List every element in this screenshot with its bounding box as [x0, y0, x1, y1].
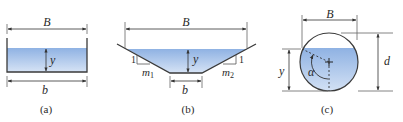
label-b: b	[42, 83, 48, 97]
panel-c-circular-channel: B d y α (c)	[278, 7, 393, 116]
label-y: y	[49, 53, 56, 67]
panel-b-trapezoidal-channel: B y 1 m1 1 m2 b (b)	[117, 15, 256, 116]
label-y: y	[278, 64, 285, 78]
label-d: d	[384, 54, 391, 68]
label-B: B	[182, 15, 190, 29]
left-slope-rise: 1	[131, 54, 136, 65]
label-alpha: α	[308, 65, 315, 79]
caption-c: (c)	[321, 103, 334, 116]
water-fill	[7, 48, 87, 72]
label-B: B	[43, 15, 51, 29]
caption-b: (b)	[182, 103, 195, 116]
panel-a-rectangular-channel: B y b (a)	[7, 15, 87, 116]
caption-a: (a)	[40, 103, 53, 116]
left-slope-run: m1	[142, 66, 154, 80]
label-y: y	[192, 52, 199, 66]
label-b: b	[182, 83, 188, 97]
right-slope-run: m2	[222, 66, 234, 80]
label-B: B	[326, 7, 334, 21]
channel-cross-sections-figure: B y b (a) B y 1 m1 1 m2 b (b)	[0, 0, 403, 122]
right-slope-rise: 1	[239, 54, 244, 65]
